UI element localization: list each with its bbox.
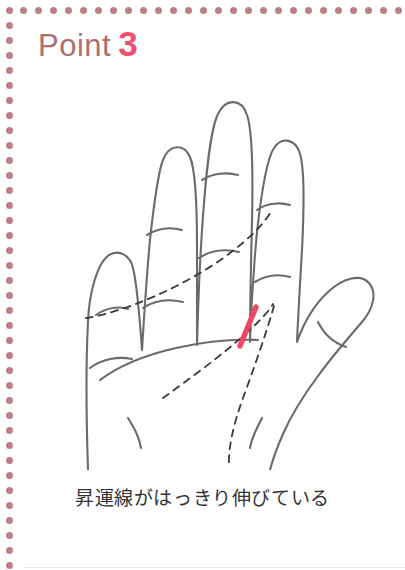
border-dot-top	[140, 7, 147, 14]
border-dot-top	[125, 7, 132, 14]
point-3-palmistry-card: Point 3	[0, 0, 405, 570]
border-dot-left	[6, 547, 13, 554]
border-dot-top	[185, 7, 192, 14]
border-dot-top	[215, 7, 222, 14]
ring-crease-upper	[147, 228, 182, 235]
border-dot-top	[35, 7, 42, 14]
head-line	[163, 304, 273, 398]
border-dot-left	[6, 472, 13, 479]
wrist-tick-right	[250, 418, 262, 448]
border-dot-top	[290, 7, 297, 14]
index-crease-lower	[255, 275, 290, 282]
border-dot-top	[170, 7, 177, 14]
border-dot-top	[395, 7, 402, 14]
border-dot-top	[95, 7, 102, 14]
border-dot-top	[65, 7, 72, 14]
border-dot-left	[6, 562, 13, 569]
dotted-border-top	[0, 0, 405, 22]
border-dot-left	[6, 517, 13, 524]
border-dot-top	[80, 7, 87, 14]
border-dot-top	[275, 7, 282, 14]
wrist-tick-left	[128, 418, 141, 448]
border-dot-top	[350, 7, 357, 14]
border-dot-left	[6, 532, 13, 539]
border-dot-top	[20, 7, 27, 14]
hand-outline-group	[87, 102, 374, 470]
border-dot-left	[6, 22, 13, 29]
hand-illustration	[0, 50, 405, 470]
border-dot-top	[155, 7, 162, 14]
pinky-crease-lower	[90, 358, 132, 368]
border-dot-top	[200, 7, 207, 14]
border-dot-top	[320, 7, 327, 14]
border-dot-top	[305, 7, 312, 14]
thumb-crease	[318, 322, 346, 347]
bottom-divider	[24, 567, 405, 568]
border-dot-top	[110, 7, 117, 14]
hand-svg	[0, 50, 405, 470]
border-dot-top	[230, 7, 237, 14]
index-crease-upper	[257, 203, 290, 210]
border-dot-top	[245, 7, 252, 14]
palm-knuckle-arc	[100, 340, 258, 380]
border-dot-top	[335, 7, 342, 14]
border-dot-left	[6, 37, 13, 44]
caption-text: 昇運線がはっきり伸びている	[0, 483, 405, 510]
border-dot-top	[365, 7, 372, 14]
border-dot-top	[50, 7, 57, 14]
hand-contour-path	[87, 102, 374, 470]
border-dot-top	[380, 7, 387, 14]
border-dot-left	[6, 7, 13, 14]
border-dot-top	[260, 7, 267, 14]
ring-crease-lower	[143, 300, 183, 308]
